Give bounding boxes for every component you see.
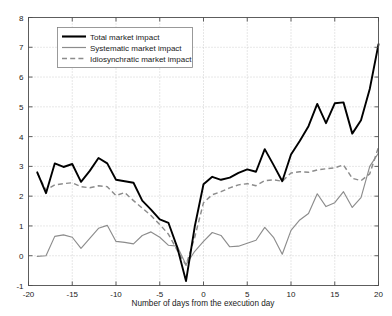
x-tick-label: 0 bbox=[201, 290, 206, 299]
series-line-total bbox=[37, 44, 378, 281]
chart-legend: Total market impact Systematic market im… bbox=[58, 28, 193, 68]
x-tick-label: 5 bbox=[245, 290, 250, 299]
x-axis-title: Number of days from the execution day bbox=[132, 299, 276, 308]
y-tick-label: 4 bbox=[19, 133, 24, 142]
x-tick-label: -5 bbox=[156, 290, 164, 299]
y-tick-label: 7 bbox=[19, 43, 24, 52]
series-line-systematic bbox=[37, 153, 378, 265]
x-tick-label: -10 bbox=[110, 290, 122, 299]
x-tick-label: -15 bbox=[66, 290, 78, 299]
y-tick-label: 5 bbox=[19, 103, 24, 112]
y-tick-label: 8 bbox=[19, 14, 24, 23]
x-tick-label: -20 bbox=[23, 290, 35, 299]
y-tick-label: 6 bbox=[19, 73, 24, 82]
legend-label-total: Total market impact bbox=[90, 33, 160, 42]
y-tick-label: 3 bbox=[19, 162, 24, 171]
legend-label-idiosynchratic: Idiosynchratic market impact bbox=[90, 55, 192, 64]
x-tick-label: 10 bbox=[287, 290, 296, 299]
y-tick-label: -1 bbox=[16, 282, 24, 291]
x-tick-label: 15 bbox=[330, 290, 339, 299]
legend-label-systematic: Systematic market impact bbox=[90, 44, 182, 53]
y-tick-label: 2 bbox=[19, 192, 24, 201]
series-layer bbox=[37, 44, 378, 281]
y-tick-label: 0 bbox=[19, 252, 24, 261]
chart-figure: -20-15-10-505101520-1012345678 Number of… bbox=[0, 0, 392, 316]
line-chart: -20-15-10-505101520-1012345678 Number of… bbox=[0, 0, 392, 316]
y-tick-label: 1 bbox=[19, 222, 24, 231]
x-tick-label: 20 bbox=[374, 290, 383, 299]
